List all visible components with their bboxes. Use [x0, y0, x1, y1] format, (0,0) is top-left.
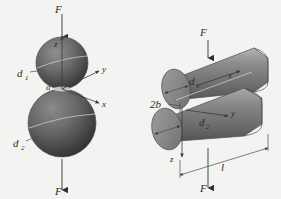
axis-x-label-right: x: [227, 70, 232, 80]
axis-y-label-left: y: [101, 64, 106, 74]
svg-text:2: 2: [206, 123, 210, 131]
force-label-top-left: F: [54, 3, 62, 15]
svg-text:d: d: [13, 137, 19, 149]
contact-stress-figure: F F d 1 d 2 a z y x: [0, 0, 281, 199]
svg-text:d: d: [17, 67, 23, 79]
axis-z-label-right: z: [169, 154, 174, 164]
contact-width-label-right: 2b: [150, 98, 162, 110]
contact-radius-label-left: a: [46, 82, 51, 92]
lower-sphere: [28, 89, 96, 157]
length-label-right: l: [221, 161, 224, 173]
svg-text:d: d: [189, 75, 195, 87]
force-label-bottom-right: F: [199, 182, 207, 194]
figure-canvas: F F d 1 d 2 a z y x: [0, 0, 281, 199]
axis-x-label-left: x: [101, 99, 106, 109]
force-label-bottom-left: F: [54, 185, 62, 197]
svg-text:1: 1: [25, 74, 29, 82]
axis-y-label-right: y: [230, 108, 235, 118]
svg-text:1: 1: [196, 82, 200, 90]
svg-text:2: 2: [21, 144, 25, 152]
force-label-top-right: F: [199, 26, 207, 38]
axis-z-label-left: z: [53, 39, 58, 49]
svg-text:d: d: [199, 116, 205, 128]
